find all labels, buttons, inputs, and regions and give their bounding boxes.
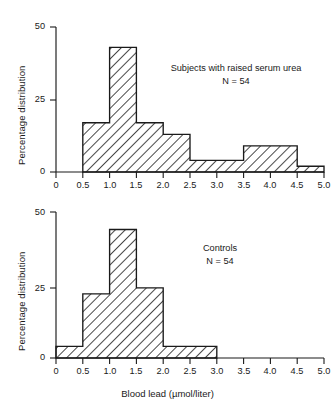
x-axis-ticks-top (56, 172, 324, 178)
y-tick-label-25-bottom: 25 (23, 283, 45, 293)
annotation-group-label-top: Subjects with raised serum urea (151, 62, 321, 75)
y-tick-label-0-top: 0 (23, 166, 45, 176)
x-tick-label-45-top: 4.5 (284, 180, 310, 190)
x-tick-label-0-top: 0 (43, 180, 69, 190)
annotation-group-label-bottom: Controls (160, 242, 280, 255)
x-tick-label-20-top: 2.0 (150, 180, 176, 190)
x-tick-label-35-top: 3.5 (231, 180, 257, 190)
annotation-sample-size-top: N = 54 (151, 75, 321, 88)
x-tick-label-05-bottom: 0.5 (70, 366, 96, 376)
plot-area-top (0, 0, 335, 200)
y-axis-ticks-bottom (50, 212, 56, 358)
y-tick-label-50-top: 50 (23, 21, 45, 31)
x-axis-label: Blood lead (µmol/liter) (0, 388, 335, 399)
x-tick-label-10-bottom: 1.0 (97, 366, 123, 376)
annotation-sample-size-bottom: N = 54 (160, 255, 280, 268)
histogram-figure: Percentage distribution 50 25 0 (0, 0, 335, 416)
x-tick-label-40-bottom: 4.0 (257, 366, 283, 376)
chart-panel-bottom: Percentage distribution 50 25 0 (0, 196, 335, 416)
y-axis-label-top: Percentage distribution (16, 66, 27, 165)
y-tick-label-50-bottom: 50 (23, 207, 45, 217)
x-axis-ticks-bottom (56, 358, 324, 364)
x-tick-label-0-bottom: 0 (43, 366, 69, 376)
x-tick-label-20-bottom: 2.0 (150, 366, 176, 376)
x-tick-label-35-bottom: 3.5 (231, 366, 257, 376)
x-tick-label-30-bottom: 3.0 (204, 366, 230, 376)
y-tick-label-25-top: 25 (23, 94, 45, 104)
chart-panel-top: Percentage distribution 50 25 0 (0, 0, 335, 200)
x-tick-label-15-top: 1.5 (123, 180, 149, 190)
y-axis-label-bottom: Percentage distribution (16, 252, 27, 351)
x-tick-label-10-top: 1.0 (97, 180, 123, 190)
y-axis-ticks-top (50, 27, 56, 172)
plot-area-bottom (0, 196, 335, 416)
x-tick-label-25-top: 2.5 (177, 180, 203, 190)
x-tick-label-50-bottom: 5.0 (311, 366, 335, 376)
x-tick-label-50-top: 5.0 (311, 180, 335, 190)
x-tick-label-15-bottom: 1.5 (123, 366, 149, 376)
x-tick-label-25-bottom: 2.5 (177, 366, 203, 376)
x-tick-label-40-top: 4.0 (257, 180, 283, 190)
x-tick-label-30-top: 3.0 (204, 180, 230, 190)
y-tick-label-0-bottom: 0 (23, 352, 45, 362)
x-tick-label-45-bottom: 4.5 (284, 366, 310, 376)
x-tick-label-05-top: 0.5 (70, 180, 96, 190)
